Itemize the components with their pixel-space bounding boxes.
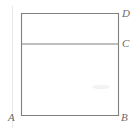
figure-canvas bbox=[0, 0, 140, 134]
vertex-label-d: D bbox=[122, 8, 130, 19]
vertex-label-c: C bbox=[122, 38, 129, 49]
geometry-figure: A B C D bbox=[0, 0, 140, 134]
vertex-label-b: B bbox=[121, 112, 128, 123]
scan-smudge bbox=[92, 85, 110, 89]
vertex-label-a: A bbox=[8, 112, 15, 123]
